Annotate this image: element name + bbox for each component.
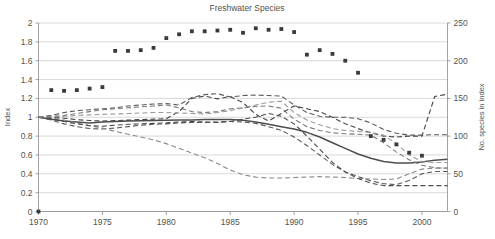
species-count-marker [369, 134, 373, 138]
y-tick-label: 1.6 [21, 56, 33, 66]
species-count-marker [139, 48, 143, 52]
y2-tick-label: 100 [454, 131, 468, 141]
y2-tick-label: 200 [454, 56, 468, 66]
species-count-marker [88, 87, 92, 91]
species-count-marker [216, 29, 220, 33]
species-count-marker [382, 138, 386, 142]
y-tick-label: 2 [28, 18, 33, 28]
x-tick-label: 1975 [93, 217, 112, 227]
x-tick-label: 1985 [221, 217, 240, 227]
species-count-marker [292, 30, 296, 34]
species-count-marker [305, 53, 309, 57]
species-count-marker [152, 46, 156, 50]
x-tick-label: 1995 [349, 217, 368, 227]
y2-tick-label: 0 [454, 207, 459, 217]
species-count-marker [356, 71, 360, 75]
y-tick-label: 0 [28, 207, 33, 217]
y-tick-label: 1.2 [21, 93, 33, 103]
y-axis-label: Index [3, 108, 12, 127]
species-count-marker [343, 59, 347, 63]
species-count-marker [75, 88, 79, 92]
species-count-marker [203, 29, 207, 33]
species-count-marker [318, 48, 322, 52]
species-count-marker [228, 28, 232, 32]
species-count-marker [49, 88, 53, 92]
species-count-marker [190, 29, 194, 33]
y-tick-label: 1 [28, 112, 33, 122]
freshwater-species-chart: Freshwater Species 00.20.40.60.811.21.41… [0, 0, 495, 239]
species-count-marker [101, 85, 105, 89]
species-count-marker [37, 210, 41, 214]
species-count-marker [279, 27, 283, 31]
species-count-marker [126, 49, 130, 53]
species-count-marker [331, 52, 335, 56]
y2-axis-label: No. species in index [477, 83, 486, 150]
species-count-marker [420, 154, 424, 158]
chart-container: Freshwater Species 00.20.40.60.811.21.41… [0, 0, 495, 239]
species-count-marker [407, 151, 411, 155]
x-tick-label: 2000 [412, 217, 431, 227]
y-tick-label: 0.6 [21, 150, 33, 160]
y-tick-label: 0.2 [21, 188, 33, 198]
species-count-marker [267, 28, 271, 32]
species-count-marker [394, 142, 398, 146]
y2-tick-label: 50 [454, 169, 464, 179]
x-tick-label: 1980 [157, 217, 176, 227]
species-count-marker [62, 89, 66, 93]
chart-title: Freshwater Species [209, 3, 284, 13]
y-tick-label: 0.8 [21, 131, 33, 141]
species-count-marker [177, 32, 181, 36]
y-tick-label: 1.8 [21, 37, 33, 47]
species-count-marker [254, 26, 258, 30]
y-tick-label: 1.4 [21, 75, 33, 85]
y2-tick-label: 150 [454, 93, 468, 103]
species-count-marker [241, 31, 245, 35]
x-tick-label: 1990 [285, 217, 304, 227]
species-count-marker [164, 36, 168, 40]
y2-tick-label: 250 [454, 18, 468, 28]
x-tick-label: 1970 [29, 217, 48, 227]
y-tick-label: 0.4 [21, 169, 33, 179]
species-count-marker [113, 49, 117, 53]
